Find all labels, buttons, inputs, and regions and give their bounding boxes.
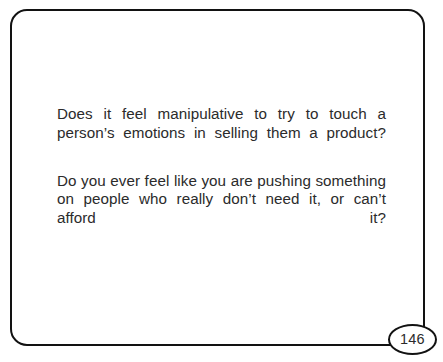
page-number-label: 146 xyxy=(400,332,425,347)
question-paragraph-1: Does it feel manipulative to try to touc… xyxy=(57,105,386,161)
slide-body-text: Does it feel manipulative to try to touc… xyxy=(57,105,386,246)
question-paragraph-2: Do you ever feel like you are pushing so… xyxy=(57,172,386,246)
page-number-badge: 146 xyxy=(388,324,437,355)
slide-canvas: Does it feel manipulative to try to touc… xyxy=(0,0,443,362)
